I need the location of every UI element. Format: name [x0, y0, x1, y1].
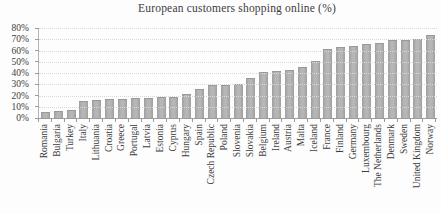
bar-greece [118, 99, 127, 118]
x-axis-label-latvia: Latvia [142, 124, 152, 148]
x-tick-cell [398, 119, 411, 122]
x-axis-label-lithuania: Lithuania [91, 124, 101, 160]
x-label-cell: Cyprus [166, 124, 179, 212]
y-tick [35, 50, 39, 51]
y-axis-label-40: 40% [12, 68, 29, 78]
x-axis-label-sweden: Sweden [399, 124, 409, 154]
bar-portugal [131, 98, 140, 118]
bar-italy [79, 101, 88, 118]
bar-croatia [105, 99, 114, 118]
y-axis: 0%10%20%30%40%50%60%70%80% [0, 28, 34, 118]
x-axis-label-iceland: Iceland [309, 124, 319, 152]
x-tick-cell [77, 119, 90, 122]
x-axis-labels: RomaniaBulgariaTurkeyItalyLithuaniaCroat… [38, 124, 436, 212]
x-axis-label-romania: Romania [39, 124, 49, 158]
x-axis-label-greece: Greece [116, 124, 126, 151]
x-label-cell: Latvia [141, 124, 154, 212]
bar-lithuania [92, 100, 101, 118]
y-axis-label-50: 50% [12, 57, 29, 67]
x-label-cell: Austria [282, 124, 295, 212]
bar-iceland [311, 61, 320, 118]
x-axis-label-united-kingdom: United Kingdom [412, 124, 422, 188]
x-label-cell: Slovenia [231, 124, 244, 212]
y-axis-label-70: 70% [12, 34, 29, 44]
bar-austria [285, 70, 294, 118]
x-tick-cell [218, 119, 231, 122]
x-axis-label-belgium: Belgium [258, 124, 268, 157]
x-axis-label-denmark: Denmark [386, 124, 396, 159]
x-tick-cell [411, 119, 424, 122]
x-tick-cell [295, 119, 308, 122]
x-label-cell: Sweden [398, 124, 411, 212]
x-axis-label-the-netherlands: The Netherlands [373, 124, 383, 187]
plot-area [38, 28, 437, 119]
y-tick [35, 106, 39, 107]
x-tick-cell [372, 119, 385, 122]
x-tick-cell [103, 119, 116, 122]
x-label-cell: Czech Republic [205, 124, 218, 212]
x-tick-cell [282, 119, 295, 122]
x-label-cell: Hungary [179, 124, 192, 212]
x-label-cell: Romania [38, 124, 51, 212]
x-label-cell: Croatia [102, 124, 115, 212]
gridline-20 [39, 96, 437, 97]
x-tick-cell [334, 119, 347, 122]
x-axis-label-spain: Spain [194, 124, 204, 146]
x-label-cell: Spain [192, 124, 205, 212]
gridline-70 [39, 39, 437, 40]
gridline-50 [39, 62, 437, 63]
x-tick-cell [423, 119, 436, 122]
y-axis-label-0: 0% [16, 113, 29, 123]
x-axis-label-luxembourg: Luxembourg [361, 124, 371, 173]
x-axis-label-estonia: Estonia [155, 124, 165, 153]
gridline-40 [39, 73, 437, 74]
x-tick-cell [206, 119, 219, 122]
x-label-cell: France [321, 124, 334, 212]
x-axis-label-cyprus: Cyprus [168, 124, 178, 151]
x-tick-cell [257, 119, 270, 122]
bar-chart-figure: European customers shopping online (%) 0… [0, 0, 441, 214]
x-axis-label-ireland: Ireland [271, 124, 281, 151]
bar-ireland [272, 71, 281, 118]
bar-poland [221, 85, 230, 118]
y-axis-label-20: 20% [12, 91, 29, 101]
x-label-cell: Malta [295, 124, 308, 212]
y-tick [35, 61, 39, 62]
bar-romania [41, 112, 50, 118]
x-axis-label-croatia: Croatia [104, 124, 114, 152]
x-label-cell: Germany [346, 124, 359, 212]
y-tick [35, 84, 39, 85]
x-tick-cell [385, 119, 398, 122]
x-tick-cell [129, 119, 142, 122]
y-tick [35, 73, 39, 74]
x-label-cell: United Kingdom [410, 124, 423, 212]
gridline-30 [39, 84, 437, 85]
x-label-cell: The Netherlands [372, 124, 385, 212]
x-label-cell: Finland [333, 124, 346, 212]
bar-slovenia [234, 84, 243, 118]
gridline-80 [39, 28, 437, 29]
x-axis-label-malta: Malta [296, 124, 306, 146]
chart-title: European customers shopping online (%) [38, 2, 436, 14]
gridline-10 [39, 107, 437, 108]
bar-malta [298, 67, 307, 118]
x-label-cell: Norway [423, 124, 436, 212]
x-axis-label-bulgaria: Bulgaria [52, 124, 62, 157]
x-label-cell: Slovakia [244, 124, 257, 212]
x-label-cell: Poland [218, 124, 231, 212]
x-label-cell: Ireland [269, 124, 282, 212]
x-tick-cell [142, 119, 155, 122]
x-label-cell: Iceland [308, 124, 321, 212]
x-label-cell: Belgium [256, 124, 269, 212]
x-tick-cell [116, 119, 129, 122]
bar-spain [195, 89, 204, 118]
y-tick [35, 28, 39, 29]
x-axis-label-hungary: Hungary [181, 124, 191, 157]
x-tick-cell [90, 119, 103, 122]
bar-turkey [67, 110, 76, 118]
y-axis-label-60: 60% [12, 46, 29, 56]
x-axis-label-poland: Poland [219, 124, 229, 150]
x-label-cell: Bulgaria [51, 124, 64, 212]
x-label-cell: Turkey [64, 124, 77, 212]
y-axis-label-30: 30% [12, 79, 29, 89]
